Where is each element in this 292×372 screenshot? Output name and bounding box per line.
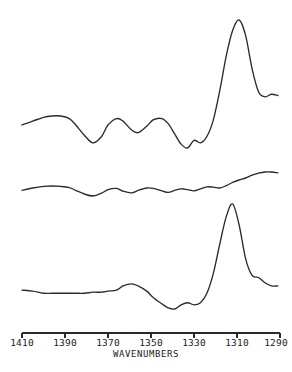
axis-group: 1410139013701350133013101290 — [10, 333, 288, 348]
spectra-figure: 1410139013701350133013101290 WAVENUMBERS — [0, 0, 292, 372]
axis-tick-label: 1410 — [10, 337, 34, 348]
axis-tick-label: 1390 — [53, 337, 77, 348]
axis-tick-label: 1350 — [139, 337, 163, 348]
spectrum-trace-bottom — [22, 204, 278, 309]
spectrum-trace-middle — [22, 172, 278, 196]
axis-tick-label: 1290 — [264, 337, 288, 348]
axis-title: WAVENUMBERS — [113, 349, 179, 359]
axis-tick-label: 1330 — [182, 337, 206, 348]
trace-group — [22, 20, 278, 309]
axis-tick-label: 1370 — [96, 337, 120, 348]
spectrum-trace-top — [22, 20, 278, 148]
axis-tick-labels: 1410139013701350133013101290 — [10, 337, 288, 348]
axis-tick-label: 1310 — [225, 337, 249, 348]
spectra-plot: 1410139013701350133013101290 WAVENUMBERS — [0, 0, 292, 372]
